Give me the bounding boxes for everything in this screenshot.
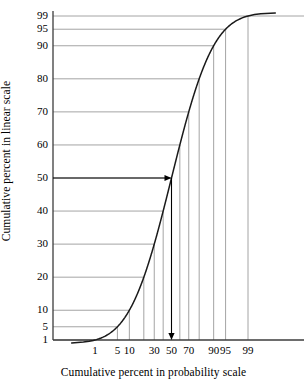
y-tick-label: 95 bbox=[18, 23, 48, 34]
y-tick-label: 1 bbox=[18, 334, 48, 345]
x-tick-label: 99 bbox=[236, 345, 260, 356]
probability-scale-chart-figure: 151020304050607080909599 151030507090959… bbox=[0, 0, 307, 387]
y-tick-label: 90 bbox=[18, 40, 48, 51]
y-tick-label: 99 bbox=[18, 10, 48, 21]
x-tick-label: 10 bbox=[117, 345, 141, 356]
y-tick-label: 30 bbox=[18, 238, 48, 249]
y-tick-label: 10 bbox=[18, 304, 48, 315]
y-tick-label: 50 bbox=[18, 172, 48, 183]
y-tick-label: 70 bbox=[18, 106, 48, 117]
x-tick-label: 1 bbox=[83, 345, 107, 356]
x-axis-title: Cumulative percent in probability scale bbox=[0, 366, 307, 378]
y-tick-label: 60 bbox=[18, 139, 48, 150]
y-tick-label: 80 bbox=[18, 73, 48, 84]
y-tick-label: 20 bbox=[18, 271, 48, 282]
x-tick-label: 70 bbox=[177, 345, 201, 356]
y-tick-label: 40 bbox=[18, 205, 48, 216]
y-tick-label: 5 bbox=[18, 321, 48, 332]
y-axis-title: Cumulative percent in linear scale bbox=[0, 2, 12, 320]
x-tick-label: 95 bbox=[214, 345, 238, 356]
